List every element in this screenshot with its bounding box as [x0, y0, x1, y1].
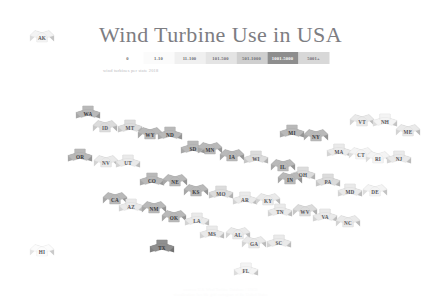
legend-swatch-3: 101-500: [205, 52, 236, 64]
state-tile-FL[interactable]: [234, 263, 258, 276]
state-tile-ME[interactable]: [396, 125, 420, 137]
state-tile-MI[interactable]: [280, 125, 304, 138]
state-tile-NE[interactable]: [163, 175, 187, 187]
state-tile-WI[interactable]: [244, 151, 268, 164]
state-tile-SC[interactable]: [267, 235, 291, 248]
legend: 01-1011-100101-500501-10001001-50005001+: [112, 52, 329, 64]
state-tile-NC[interactable]: [336, 216, 360, 228]
legend-swatch-4: 501-1000: [236, 52, 267, 64]
state-tile-HI[interactable]: [30, 245, 54, 257]
legend-swatch-6: 5001+: [298, 52, 329, 64]
state-tile-LA[interactable]: [185, 213, 209, 226]
state-tile-OR[interactable]: [68, 149, 92, 162]
state-tile-MS[interactable]: [200, 226, 224, 239]
state-tile-IN[interactable]: [278, 173, 302, 185]
state-tile-NH[interactable]: [373, 114, 397, 127]
state-tile-WA[interactable]: [76, 106, 100, 119]
state-tile-UT[interactable]: [116, 155, 140, 168]
state-tile-KY[interactable]: [256, 194, 280, 206]
state-tile-NY[interactable]: [304, 130, 328, 142]
legend-swatch-5: 1001-5000: [267, 52, 298, 64]
state-tile-NV[interactable]: [94, 156, 118, 168]
state-tile-OK[interactable]: [162, 211, 186, 223]
legend-swatch-2: 11-100: [174, 52, 205, 64]
state-tile-MO[interactable]: [209, 186, 233, 199]
state-tile-AZ[interactable]: [119, 199, 143, 212]
state-tile-MA[interactable]: [327, 144, 351, 157]
state-tile-GA[interactable]: [242, 237, 266, 249]
source-credit: sources: U.S. Wind Turbine Database / US…: [0, 288, 441, 298]
state-tile-AR[interactable]: [233, 192, 257, 205]
state-tile-CA[interactable]: [103, 193, 127, 205]
legend-caption: wind turbines per state 2018: [103, 68, 158, 73]
state-tile-MD[interactable]: [338, 184, 362, 197]
page-title: Wind Turbine Use in USA: [0, 22, 441, 48]
state-tile-VT[interactable]: [350, 115, 374, 127]
state-tile-MT[interactable]: [118, 120, 142, 133]
state-tile-NJ[interactable]: [387, 151, 411, 164]
state-tile-IA[interactable]: [220, 150, 244, 162]
state-tile-CO[interactable]: [140, 173, 164, 186]
state-tile-RI[interactable]: [366, 152, 390, 164]
state-tile-WV[interactable]: [293, 205, 317, 217]
state-tile-IL[interactable]: [271, 160, 295, 172]
state-tile-ID[interactable]: [93, 121, 117, 133]
map-visualization: Wind Turbine Use in USA 01-1011-100101-5…: [0, 0, 441, 303]
state-tile-TN[interactable]: [268, 204, 292, 217]
state-tile-KS[interactable]: [184, 185, 208, 197]
state-tile-TX[interactable]: [150, 240, 174, 253]
legend-swatch-0: 0: [112, 52, 143, 64]
state-tile-ND[interactable]: [158, 127, 182, 140]
legend-swatch-1: 1-10: [143, 52, 174, 64]
state-tile-PA[interactable]: [316, 174, 340, 187]
state-tile-NM[interactable]: [142, 202, 166, 214]
state-tile-DE[interactable]: [363, 185, 387, 197]
